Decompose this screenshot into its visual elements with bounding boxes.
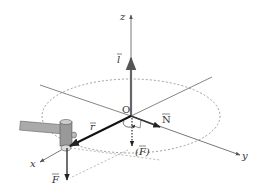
- angular-momentum-diagram: z l O N r (F) x y F: [0, 0, 263, 190]
- position-vector: [70, 116, 131, 146]
- rotation-arc: [123, 121, 135, 127]
- y-axis-label: y: [241, 150, 248, 161]
- force-label: F: [51, 174, 60, 185]
- x-axis-label: x: [30, 158, 36, 169]
- normal-force-label: N: [162, 114, 171, 125]
- hammer-icon: [20, 120, 77, 152]
- origin-label: O: [122, 104, 130, 115]
- hammer-head: [60, 122, 72, 146]
- position-vector-label: r: [90, 121, 96, 132]
- plane-line-left: [40, 85, 131, 116]
- projection-line: [70, 150, 128, 178]
- hammer-pin: [72, 132, 77, 138]
- hammer-head-top: [60, 120, 72, 125]
- angular-momentum-label: l: [117, 54, 120, 65]
- projected-force-label: (F): [135, 146, 150, 157]
- hammer-handle: [20, 121, 65, 134]
- z-axis-label: z: [119, 11, 126, 22]
- hammer-face: [61, 145, 71, 151]
